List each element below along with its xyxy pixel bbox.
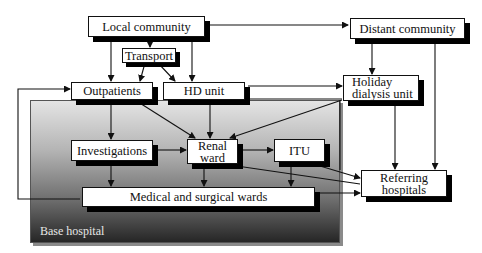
node-itu: ITU — [274, 139, 325, 162]
node-medical-surgical-wards: Medical and surgical wards — [82, 187, 315, 207]
outpatients-label: Outpatients — [83, 85, 141, 97]
local-community-label: Local community — [102, 21, 191, 33]
node-hd-unit: HD unit — [163, 82, 245, 100]
node-referring-hospitals: Referring hospitals — [361, 170, 447, 197]
node-local-community: Local community — [88, 16, 205, 37]
distant-community-label: Distant community — [359, 23, 455, 35]
node-outpatients: Outpatients — [71, 82, 153, 100]
node-transport: Transport — [122, 48, 176, 63]
referring-hospitals-label: Referring hospitals — [376, 172, 432, 196]
node-holiday-dialysis-unit: Holiday dialysis unit — [343, 75, 419, 101]
node-renal-ward: Renal ward — [187, 139, 238, 164]
holiday-dialysis-unit-label: Holiday dialysis unit — [352, 76, 418, 100]
care-network-diagram: Base hospital — [0, 0, 482, 253]
itu-label: ITU — [289, 145, 310, 157]
transport-label: Transport — [125, 50, 173, 62]
node-investigations: Investigations — [71, 140, 153, 161]
investigations-label: Investigations — [77, 145, 147, 157]
renal-ward-label: Renal ward — [196, 140, 229, 164]
hd-unit-label: HD unit — [184, 85, 225, 97]
node-distant-community: Distant community — [350, 18, 465, 39]
medical-surgical-wards-label: Medical and surgical wards — [130, 191, 268, 203]
